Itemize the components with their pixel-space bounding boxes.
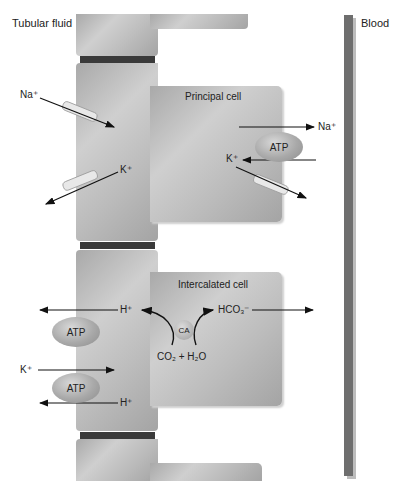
k-ion-basolateral: K⁺ — [226, 154, 238, 164]
k-channel-apical — [46, 170, 118, 204]
k-channel-basolateral — [236, 167, 306, 198]
transport-arrows — [0, 0, 405, 498]
k-ion-apical: K⁺ — [120, 165, 132, 175]
carbonic-anhydrase: CA — [174, 320, 194, 340]
na-ion-basolateral: Na⁺ — [318, 122, 336, 132]
h-ion-apical: H⁺ — [120, 305, 132, 315]
atp-pump-h: ATP — [52, 317, 100, 347]
na-channel-apical — [40, 98, 114, 127]
k-ion-intercalated: K⁺ — [20, 365, 32, 375]
h-ion-bottom: H⁺ — [120, 398, 132, 408]
co2-h2o-reaction: CO₂ + H₂O — [157, 352, 206, 362]
atp-pump-principal: ATP — [255, 132, 303, 162]
atp-pump-h-k: ATP — [52, 373, 100, 403]
hco3-ion: HCO₃⁻ — [218, 305, 249, 315]
na-ion-apical: Na⁺ — [20, 90, 38, 100]
